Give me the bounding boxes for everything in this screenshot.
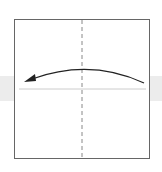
fold-arrow-arc xyxy=(32,69,144,83)
arrowhead-icon xyxy=(24,74,36,82)
fold-diagram xyxy=(0,0,162,172)
